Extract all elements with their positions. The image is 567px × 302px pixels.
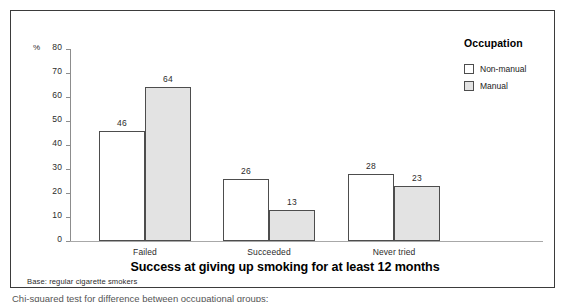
bar-value-label: 28	[348, 161, 394, 171]
x-axis-category-label: Succeeded	[201, 247, 337, 257]
bar-value-label: 46	[99, 118, 145, 128]
x-axis-category-label: Never tried	[326, 247, 462, 257]
legend-item-label: Non-manual	[480, 64, 526, 74]
bar-never-tried-non-manual	[348, 174, 394, 241]
legend-swatch-icon	[464, 81, 474, 91]
y-axis-tick-label: 60	[52, 90, 62, 100]
legend-swatch-icon	[464, 64, 474, 74]
legend-title: Occupation	[464, 37, 555, 49]
bar-value-label: 13	[269, 197, 315, 207]
y-axis-unit-label: %	[33, 43, 40, 52]
bar-succeeded-non-manual	[223, 179, 269, 241]
y-axis-tick-label: 40	[52, 138, 62, 148]
y-axis-tick-label: 0	[57, 234, 62, 244]
chart-title: Success at giving up smoking for at leas…	[70, 260, 500, 274]
legend-item-non-manual[interactable]: Non-manual	[464, 64, 555, 74]
base-note: Base: regular cigarette smokers	[27, 277, 137, 286]
bar-never-tried-manual	[394, 186, 440, 241]
legend-items: Non-manualManual	[464, 64, 555, 91]
bar-value-label: 26	[223, 166, 269, 176]
legend-item-label: Manual	[480, 81, 508, 91]
y-axis-tick-label: 70	[52, 66, 62, 76]
y-axis-tick-label: 20	[52, 186, 62, 196]
bar-failed-non-manual	[99, 131, 145, 241]
y-axis-tick-label: 80	[52, 42, 62, 52]
legend-item-manual[interactable]: Manual	[464, 81, 555, 91]
bar-value-label: 64	[145, 74, 191, 84]
page-caption-clipped: Chi-squared test for difference between …	[12, 293, 557, 302]
y-axis-tick-label: 30	[52, 162, 62, 172]
y-axis-tick-label: 50	[52, 114, 62, 124]
x-axis-baseline	[70, 241, 543, 242]
bar-failed-manual	[145, 87, 191, 241]
y-axis-tick-label: 10	[52, 210, 62, 220]
x-axis-category-label: Failed	[77, 247, 213, 257]
chart-frame: % 80706050403020100 Success at giving up…	[10, 10, 555, 288]
bar-succeeded-manual	[269, 210, 315, 241]
legend: Occupation Non-manualManual	[464, 37, 555, 98]
bar-value-label: 23	[394, 173, 440, 183]
